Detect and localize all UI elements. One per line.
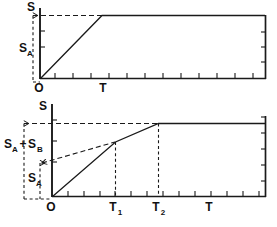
bottom-tick-label-t1-sub: 1: [118, 208, 123, 217]
bottom-tick-label-t2-sub: 2: [161, 208, 166, 217]
bottom-origin-label: O: [46, 200, 55, 214]
top-measure-label-base: S: [19, 41, 27, 55]
bottom-measure-label-sa: S A: [28, 171, 42, 188]
bottom-measure-inner-sub: A: [36, 179, 42, 188]
top-x-axis-label: T: [99, 81, 107, 95]
bottom-tick-label-t1-base: T: [109, 200, 117, 214]
panel-top: S O T S A: [19, 0, 266, 95]
bottom-measure-outer-base-b: S: [28, 137, 36, 151]
bottom-tick-label-t2: T 2: [152, 200, 165, 217]
bottom-measure-outer-sub-a: A: [12, 145, 18, 154]
bottom-tick-label-t2-base: T: [152, 200, 160, 214]
bottom-measure-outer-sub-b: B: [37, 145, 43, 154]
bottom-measure-outer-plus: +: [19, 137, 26, 151]
top-measure-label-sa: S A: [19, 41, 33, 58]
figure-root: S O T S A: [0, 0, 277, 227]
top-y-axis-label: S: [27, 0, 35, 14]
bottom-y-axis-label: S: [39, 99, 47, 113]
top-measure-label-sub: A: [27, 49, 33, 58]
bottom-tick-label-t1: T 1: [109, 200, 122, 217]
top-origin-label: O: [34, 81, 43, 95]
bottom-x-axis-label: T: [205, 200, 213, 214]
panel-bottom: S O T 1 T 2 T S A + S B S A: [4, 99, 266, 217]
saturation-diagram-svg: S O T S A: [0, 0, 277, 227]
bottom-measure-inner-base: S: [28, 171, 36, 185]
bottom-measure-outer-base-a: S: [4, 137, 12, 151]
top-saturation-curve: [41, 16, 266, 79]
bottom-measure-label-sasb: S A + S B: [4, 137, 43, 154]
